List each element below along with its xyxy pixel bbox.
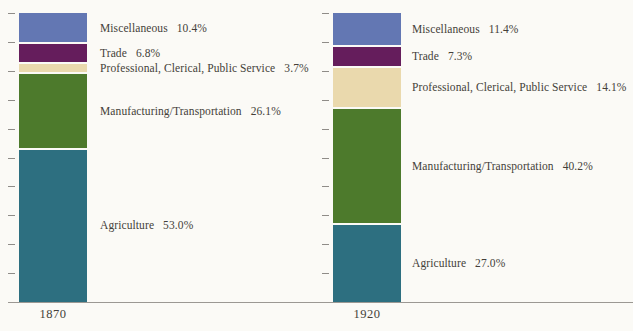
y-axis-tick	[8, 100, 15, 101]
segment-category-text: Agriculture	[412, 257, 466, 269]
segment-percent-text: 53.0%	[163, 219, 193, 231]
segment-separator	[333, 66, 401, 68]
y-axis-tick	[322, 186, 329, 187]
bar-segment-manufacturing-transportation	[333, 108, 401, 224]
bar-segment-manufacturing-transportation	[19, 73, 87, 148]
y-axis-tick	[322, 100, 329, 101]
occupational-distribution-figure: Miscellaneous10.4%Trade6.8%Professional,…	[0, 0, 633, 331]
segment-percent-text: 26.1%	[251, 105, 281, 117]
segment-separator	[333, 107, 401, 109]
segment-category-text: Agriculture	[100, 219, 154, 231]
segment-separator	[19, 72, 87, 74]
segment-category-text: Manufacturing/Transportation	[412, 160, 554, 172]
segment-percent-text: 7.3%	[448, 50, 472, 62]
segment-separator	[19, 148, 87, 150]
y-axis-tick	[322, 71, 329, 72]
segment-label: Agriculture27.0%	[412, 255, 505, 271]
y-axis-tick	[8, 42, 15, 43]
segment-category-text: Professional, Clerical, Public Service	[100, 62, 275, 74]
x-tick-label: 1870	[40, 307, 67, 322]
chart-panel-1920: Miscellaneous11.4%Trade7.3%Professional,…	[316, 0, 633, 331]
segment-percent-text: 3.7%	[284, 62, 308, 74]
segment-label: Manufacturing/Transportation40.2%	[412, 158, 593, 174]
segment-category-text: Miscellaneous	[412, 23, 480, 35]
y-axis-tick	[8, 71, 15, 72]
segment-label: Trade7.3%	[412, 48, 472, 64]
y-axis-tick	[322, 273, 329, 274]
y-axis-tick	[8, 186, 15, 187]
y-axis-tick	[322, 129, 329, 130]
segment-category-text: Manufacturing/Transportation	[100, 105, 242, 117]
chart-panel-1870: Miscellaneous10.4%Trade6.8%Professional,…	[0, 0, 316, 331]
segment-category-text: Trade	[412, 50, 439, 62]
segment-separator	[19, 42, 87, 44]
segment-percent-text: 10.4%	[177, 22, 207, 34]
bar-segment-trade	[19, 43, 87, 63]
segment-separator	[333, 45, 401, 47]
y-axis-tick	[322, 158, 329, 159]
segment-percent-text: 11.4%	[489, 23, 519, 35]
y-axis-tick	[8, 158, 15, 159]
y-axis-tick	[322, 215, 329, 216]
bar-segment-trade	[333, 46, 401, 67]
y-axis-tick	[322, 13, 329, 14]
segment-category-text: Professional, Clerical, Public Service	[412, 81, 587, 93]
bar-segment-agriculture	[19, 149, 87, 302]
y-axis-tick	[322, 244, 329, 245]
segment-percent-text: 27.0%	[475, 257, 505, 269]
bar-segment-miscellaneous	[19, 13, 87, 43]
y-axis-tick	[8, 273, 15, 274]
y-axis-tick	[8, 244, 15, 245]
bar-segment-miscellaneous	[333, 13, 401, 46]
bar-segment-agriculture	[333, 224, 401, 302]
bar-segment-professional-clerical-public-service	[333, 67, 401, 108]
segment-label: Miscellaneous11.4%	[412, 21, 519, 37]
segment-label: Professional, Clerical, Public Service3.…	[100, 60, 309, 76]
segment-label: Trade6.8%	[100, 45, 160, 61]
segment-percent-text: 40.2%	[563, 160, 593, 172]
segment-percent-text: 14.1%	[596, 81, 626, 93]
y-axis-tick	[8, 215, 15, 216]
segment-percent-text: 6.8%	[136, 47, 160, 59]
y-axis-tick	[8, 129, 15, 130]
x-tick-label: 1920	[354, 307, 381, 322]
segment-label: Miscellaneous10.4%	[100, 20, 207, 36]
y-axis-tick	[322, 42, 329, 43]
segment-category-text: Miscellaneous	[100, 22, 168, 34]
segment-label: Professional, Clerical, Public Service14…	[412, 79, 627, 95]
x-axis-line	[316, 302, 633, 303]
x-axis-line	[8, 302, 316, 303]
segment-label: Agriculture53.0%	[100, 217, 193, 233]
segment-separator	[19, 62, 87, 64]
segment-separator	[333, 223, 401, 225]
y-axis-tick	[8, 13, 15, 14]
segment-label: Manufacturing/Transportation26.1%	[100, 103, 281, 119]
segment-category-text: Trade	[100, 47, 127, 59]
